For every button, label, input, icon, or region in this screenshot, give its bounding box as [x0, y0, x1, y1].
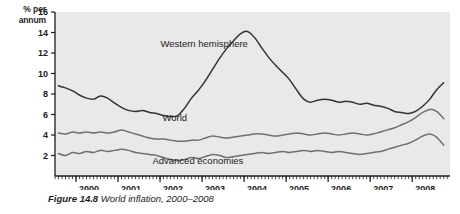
series-label: World: [162, 112, 187, 123]
y-tick-label: 16: [38, 7, 48, 17]
y-tick-label: 8: [43, 89, 48, 99]
x-tick-label: 2004: [247, 184, 267, 191]
y-tick-label: 6: [43, 110, 48, 120]
x-tick-label: 2005: [289, 184, 309, 191]
y-axis-ticks: 246810121416: [38, 7, 55, 161]
x-tick-label: 2002: [163, 184, 183, 191]
x-tick-label: 2001: [121, 184, 141, 191]
x-tick-label: 2008: [415, 184, 435, 191]
x-tick-label: 2003: [205, 184, 225, 191]
caption-label: Figure 14.8: [48, 193, 98, 204]
line-chart: 246810121416 200020012002200320042005200…: [0, 0, 460, 190]
x-axis-ticks: 200020012002200320042005200620072008: [55, 176, 447, 190]
x-tick-label: 2000: [79, 184, 99, 191]
y-tick-label: 4: [43, 130, 48, 140]
figure-caption: Figure 14.8 World inflation, 2000–2008: [48, 193, 214, 204]
series-label: Western hemisphere: [160, 38, 247, 49]
y-tick-label: 12: [38, 48, 48, 58]
y-tick-label: 10: [38, 69, 48, 79]
x-tick-label: 2006: [331, 184, 351, 191]
x-tick-label: 2007: [373, 184, 393, 191]
plot-background: [55, 12, 450, 176]
series-label: Advanced economies: [152, 155, 243, 166]
y-tick-label: 2: [43, 151, 48, 161]
figure-container: % per annum 246810121416 200020012002200…: [0, 0, 460, 214]
y-tick-label: 14: [38, 28, 48, 38]
caption-text: World inflation, 2000–2008: [101, 193, 214, 204]
